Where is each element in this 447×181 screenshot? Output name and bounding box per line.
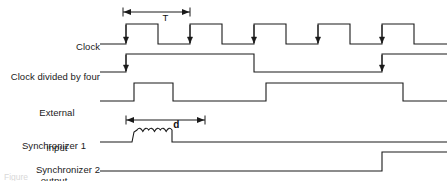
edge-marker-arrowhead [123, 65, 128, 71]
edge-marker-0-0 [123, 25, 128, 43]
trace-clock-divided-by-four [100, 54, 447, 72]
edge-marker-arrowhead [379, 65, 384, 71]
edge-marker-arrowhead [251, 37, 256, 43]
measurement-arrowhead-right [182, 9, 190, 15]
edge-marker-1-1 [379, 55, 384, 71]
edge-marker-arrowhead [123, 37, 128, 43]
edge-marker-0-4 [379, 25, 384, 43]
measurement-arrowhead-right [197, 117, 205, 123]
measurement-arrows [123, 8, 205, 125]
measurement-synchronizer-delay [126, 116, 205, 125]
timing-diagram-figure: Clock Clock divided by four External inp… [0, 0, 447, 181]
edge-marker-0-1 [187, 25, 192, 43]
waveform-canvas [0, 0, 447, 181]
figure-caption: Figure [4, 172, 28, 181]
edge-marker-arrowhead [187, 37, 192, 43]
edge-marker-0-2 [251, 25, 256, 43]
measurement-arrowhead-left [124, 9, 132, 15]
edge-marker-arrowhead [315, 37, 320, 43]
edge-marker-arrowhead [379, 37, 384, 43]
trace-external-input [100, 83, 447, 101]
trace-synchronizer-1-output [100, 128, 447, 142]
edge-marker-0-3 [315, 25, 320, 43]
measurement-arrowhead-left [127, 117, 135, 123]
trace-synchronizer-2 [100, 152, 447, 171]
waveform-traces [100, 24, 447, 171]
trace-clock [100, 24, 447, 44]
measurement-clock-period [123, 8, 190, 17]
edge-marker-1-0 [123, 55, 128, 71]
